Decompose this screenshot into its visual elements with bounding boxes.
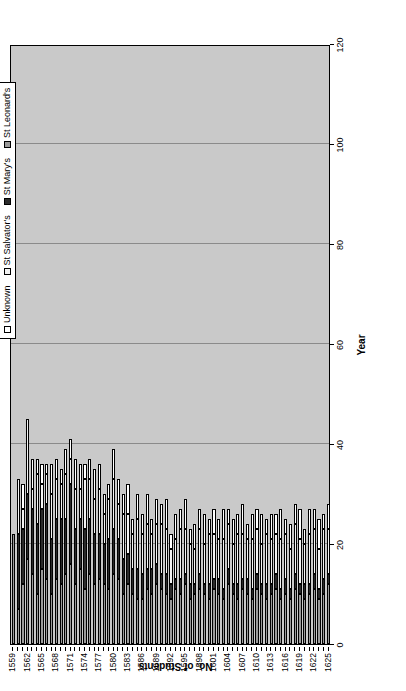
bar-segment [155,564,158,584]
bar-1605 [232,519,235,644]
bar-segment [322,594,325,644]
bar-segment [174,539,177,579]
bar-segment [313,529,316,574]
bar-segment [50,464,53,494]
bar-segment [270,594,273,644]
bar-1622 [313,509,316,644]
bar-segment [251,589,254,599]
bar-1595 [184,499,187,644]
bar-1604 [227,509,230,644]
year-tick-1585 [137,647,138,651]
bar-segment [169,584,172,599]
bar-segment [50,539,53,594]
year-tick-1605 [232,647,233,651]
bar-segment [189,529,192,544]
legend-item-1: St Salvator's [2,215,12,275]
bar-1581 [117,479,120,644]
bar-segment [289,589,292,599]
bar-segment [241,579,244,589]
bar-1569 [60,469,63,644]
value-tick-40 [330,444,334,445]
year-tick-1586 [141,647,142,651]
bar-segment [79,489,82,519]
year-tick-1602 [218,647,219,651]
bar-segment [279,509,282,539]
year-tick-1562 [27,647,28,651]
bar-segment [50,494,53,539]
bar-segment [308,594,311,644]
bar-segment [117,579,120,644]
legend-swatch-icon [4,326,11,333]
bar-segment [227,569,230,584]
bar-segment [212,589,215,644]
year-tick-1616 [285,647,286,651]
bar-segment [122,514,125,559]
bar-segment [74,489,77,529]
bar-segment [222,539,225,589]
year-label-1568: 1568 [50,653,60,672]
bar-1568 [55,459,58,644]
value-tick-label-80: 80 [335,240,345,250]
bar-segment [141,599,144,644]
bar-1598 [198,509,201,644]
year-label-1604: 1604 [222,653,232,672]
bar-segment [45,504,48,579]
bar-segment [294,589,297,644]
bar-segment [193,594,196,644]
year-tick-1612 [266,647,267,651]
bar-1600 [208,519,211,644]
year-label-1559: 1559 [7,653,17,672]
bar-segment [260,594,263,644]
bar-segment [308,584,311,594]
bar-segment [279,599,282,644]
year-label-1562: 1562 [22,653,32,672]
bar-segment [232,594,235,644]
bar-segment [317,519,320,549]
year-tick-1620 [304,647,305,651]
bar-1624 [322,514,325,644]
value-tick-label-100: 100 [335,137,345,152]
bar-segment [212,534,215,579]
value-tick-60 [330,344,334,345]
bar-segment [255,574,258,589]
bar-segment [203,594,206,644]
year-tick-1587 [146,647,147,651]
year-tick-1578 [103,647,104,651]
bar-segment [255,509,258,529]
bar-segment [146,569,149,589]
bar-segment [217,519,220,539]
bar-segment [260,544,263,584]
year-tick-1569 [60,647,61,651]
bar-segment [131,569,134,594]
bar-segment [69,564,72,644]
bar-1592 [169,534,172,644]
bar-1614 [274,514,277,644]
bar-segment [303,599,306,644]
year-tick-1559 [12,647,13,651]
bar-segment [198,529,201,574]
year-tick-1594 [180,647,181,651]
year-tick-1582 [122,647,123,651]
bar-segment [74,459,77,489]
bar-segment [313,509,316,529]
year-tick-1614 [275,647,276,651]
year-tick-1619 [299,647,300,651]
bar-segment [150,519,153,534]
bar-segment [69,484,72,564]
bar-segment [179,529,182,579]
year-tick-1608 [246,647,247,651]
bar-segment [222,589,225,599]
bar-segment [83,479,86,529]
bar-segment [21,484,24,509]
bar-segment [298,584,301,594]
bar-segment [93,534,96,584]
bar-segment [260,584,263,594]
year-label-1571: 1571 [65,653,75,672]
bar-segment [270,539,273,584]
year-tick-1624 [323,647,324,651]
value-tick-label-40: 40 [335,440,345,450]
bar-segment [141,574,144,599]
bar-segment [131,519,134,534]
bar-segment [313,574,316,589]
year-label-1598: 1598 [194,653,204,672]
